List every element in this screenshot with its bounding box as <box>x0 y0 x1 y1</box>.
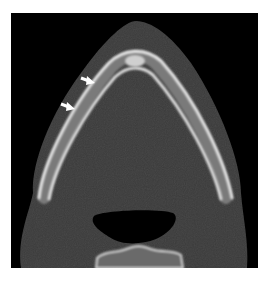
ct-image <box>11 13 258 268</box>
symphysis <box>125 55 145 67</box>
ct-scan-figure <box>11 13 258 268</box>
caption-strip <box>11 271 258 279</box>
